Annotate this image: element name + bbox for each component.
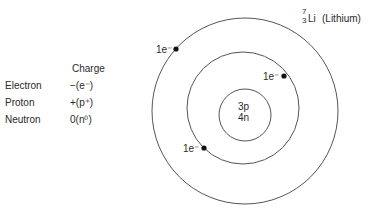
atomic-number: 3 — [302, 16, 306, 25]
electron-label-inner-2: 1e⁻ — [183, 143, 199, 155]
electron-label-outer: 1e⁻ — [156, 44, 172, 56]
bohr-model-diagram — [0, 0, 375, 216]
electron-dot-inner-2 — [201, 145, 206, 150]
element-symbol: Li — [308, 13, 316, 25]
nucleus-neutrons: 4n — [238, 112, 249, 124]
electron-dot-outer — [173, 46, 178, 51]
element-name: (Lithium) — [322, 13, 361, 25]
electron-dot-inner-1 — [281, 73, 286, 78]
electron-label-inner-1: 1e⁻ — [263, 71, 279, 83]
mass-number: 7 — [302, 7, 306, 16]
